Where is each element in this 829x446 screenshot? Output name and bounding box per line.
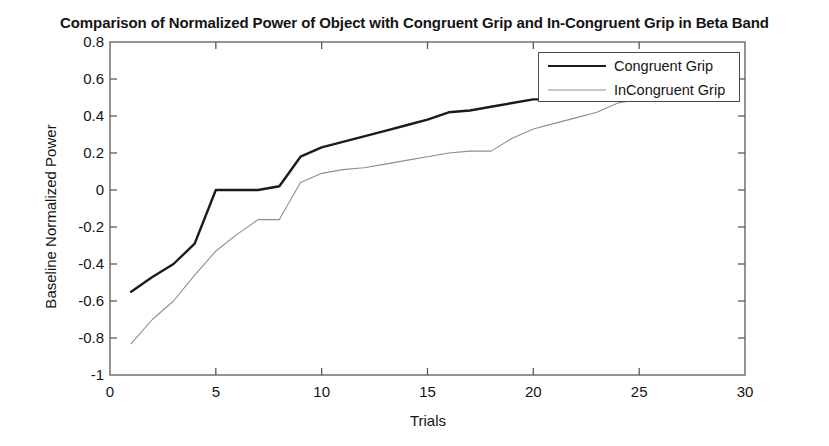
chart-figure: Comparison of Normalized Power of Object…	[0, 0, 829, 446]
chart-legend: Congruent Grip InCongruent Grip	[538, 52, 740, 102]
legend-label-congruent: Congruent Grip	[614, 58, 713, 74]
legend-item-incongruent-grip: InCongruent Grip	[539, 77, 741, 102]
legend-item-congruent-grip: Congruent Grip	[539, 53, 741, 78]
legend-line-icon-incongruent	[548, 84, 606, 96]
series-line-1	[131, 99, 639, 343]
legend-label-incongruent: InCongruent Grip	[614, 82, 725, 98]
series-line-0	[131, 99, 639, 291]
data-series-group	[131, 99, 639, 343]
legend-line-icon-congruent	[548, 60, 606, 72]
